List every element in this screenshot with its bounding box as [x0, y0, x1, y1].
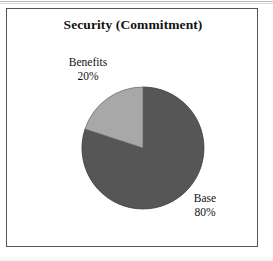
pie-label-benefits: Benefits 20%	[45, 56, 131, 83]
pie-chart-plot-area: Benefits 20% Base 80%	[7, 9, 259, 248]
pie-label-base-name: Base	[194, 192, 216, 204]
pie-label-benefits-name: Benefits	[69, 56, 107, 68]
pie-label-benefits-percent: 20%	[45, 70, 131, 84]
pie-label-base-percent: 80%	[167, 206, 243, 220]
scan-edge-shading	[0, 255, 273, 261]
figure-frame: Security (Commitment) Benefits 20% Base …	[6, 8, 258, 247]
scan-top-rule	[0, 1, 273, 2]
pie-label-base: Base 80%	[167, 192, 243, 219]
scan-top-rule-secondary	[0, 3, 273, 4]
